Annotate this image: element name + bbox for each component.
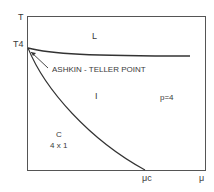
ashkin-teller-annotation: ASHKIN - TELLER POINT (52, 66, 146, 74)
region-incommensurate: I (95, 92, 98, 101)
y-tick-t4: T4 (13, 40, 24, 49)
x-axis-label: μ (199, 174, 204, 183)
y-axis-label: T (18, 13, 24, 22)
region-commensurate: C (56, 131, 62, 139)
upper-phase-boundary (28, 48, 190, 56)
region-liquid: L (92, 32, 97, 41)
phase-diagram (0, 0, 214, 192)
x-tick-mu-c: μc (142, 174, 152, 183)
p-value: p=4 (160, 94, 174, 102)
region-commensurate-4x1: 4 x 1 (50, 142, 67, 150)
